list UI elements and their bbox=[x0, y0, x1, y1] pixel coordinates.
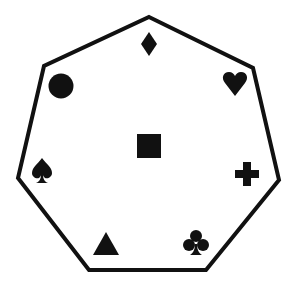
circle-icon bbox=[49, 74, 74, 99]
diagram-canvas bbox=[0, 0, 293, 290]
heptagon-diagram bbox=[0, 0, 293, 290]
square-icon bbox=[137, 134, 161, 158]
